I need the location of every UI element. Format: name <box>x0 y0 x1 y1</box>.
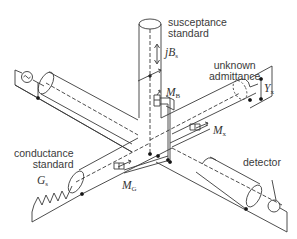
susceptance-standard-line <box>138 19 161 156</box>
symbol-sub: s <box>175 52 178 60</box>
label-line-2: admittance <box>209 71 260 82</box>
symbol-sub: G <box>132 185 137 193</box>
symbol-main: M <box>122 179 132 191</box>
detector-icon <box>268 200 280 212</box>
symbol-Gs: Gs <box>37 175 48 190</box>
label-line-2: standard <box>168 28 227 39</box>
source-line <box>15 70 138 152</box>
symbol-MG: MG <box>122 180 137 195</box>
symbol-main: M <box>166 86 176 98</box>
symbol-MB: MB <box>166 87 180 102</box>
symbol-sub: s <box>45 180 48 188</box>
label-susceptance-standard: susceptance standard <box>168 17 227 39</box>
symbol-sub: x <box>270 88 274 96</box>
symbol-main: M <box>213 124 223 136</box>
symbol-Mx: Mx <box>213 125 226 140</box>
double-arrow-icon <box>155 44 160 64</box>
label-conductance-standard: conductance standard <box>14 148 74 170</box>
symbol-jBs: jBs <box>165 47 178 62</box>
label-line-2: standard <box>14 159 74 170</box>
symbol-sub: x <box>223 130 227 138</box>
label-unknown-admittance: unknown admittance <box>209 60 260 82</box>
symbol-main: jB <box>165 46 175 58</box>
ac-source-icon <box>22 72 33 83</box>
coupling-MG <box>114 154 172 173</box>
label-detector: detector <box>243 157 281 168</box>
coupling-Mx <box>170 122 210 147</box>
symbol-Yx: Yx <box>264 83 274 98</box>
admittance-bridge-diagram: susceptance standard jBs unknown admitta… <box>0 0 297 239</box>
symbol-sub: B <box>176 92 181 100</box>
diagram-drawing <box>0 0 297 239</box>
